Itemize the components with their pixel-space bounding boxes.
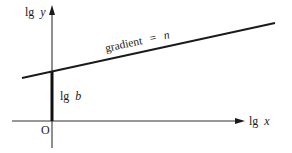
gradient-line	[22, 23, 275, 78]
x-axis-arrow-icon	[235, 118, 245, 124]
y-axis-arrow-icon	[49, 5, 55, 15]
x-axis-label: lg x	[249, 114, 270, 128]
intercept-label: lg b	[60, 89, 81, 103]
y-axis-label: lg y	[25, 5, 46, 19]
log-log-diagram: lg y lg x O lg b gradient = n	[0, 0, 292, 153]
origin-label: O	[41, 123, 50, 137]
gradient-label: gradient = n	[104, 28, 171, 55]
